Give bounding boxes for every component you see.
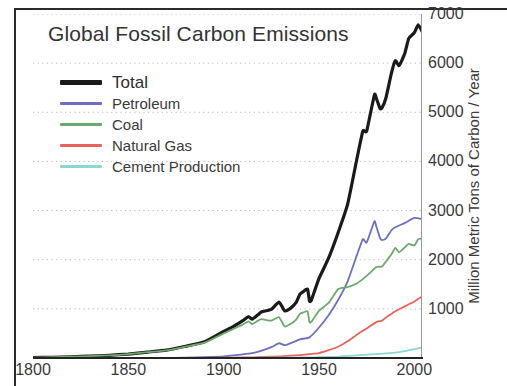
y-tick-label: 6000: [428, 54, 464, 72]
legend-label-total: Total: [112, 73, 148, 93]
legend-item-petroleum: Petroleum: [60, 93, 240, 114]
x-axis-line: [33, 357, 423, 359]
legend-swatch-total: [60, 80, 102, 85]
y-tick-label: 4000: [428, 152, 464, 170]
y-tick-label: 5000: [428, 103, 464, 121]
y-tick-label: 2000: [428, 251, 464, 269]
plot-wrapper: Global Fossil Carbon Emissions Total Pet…: [0, 0, 507, 386]
x-tick-label: 1950: [301, 361, 337, 379]
y-tick-label: 3000: [428, 202, 464, 220]
legend-swatch-petroleum: [60, 102, 102, 105]
plot-area: [33, 14, 422, 358]
series-line-coal: [33, 239, 422, 358]
chart-title: Global Fossil Carbon Emissions: [48, 22, 349, 46]
y-axis-title: Million Metric Tons of Carbon / Year: [465, 68, 482, 304]
legend-swatch-coal: [60, 123, 102, 126]
y-tick-label: 7000: [428, 5, 464, 23]
chart-legend: Total Petroleum Coal Natural Gas Cement …: [60, 72, 240, 177]
legend-label-cement-production: Cement Production: [112, 158, 240, 175]
y-axis-line: [421, 14, 422, 358]
legend-label-coal: Coal: [112, 116, 143, 133]
series-line-natural-gas: [33, 297, 422, 358]
x-tick-label: 1850: [111, 361, 147, 379]
legend-item-natural-gas: Natural Gas: [60, 135, 240, 156]
figure-root: Global Fossil Carbon Emissions Total Pet…: [0, 0, 507, 386]
legend-swatch-natural-gas: [60, 144, 102, 147]
legend-item-cement-production: Cement Production: [60, 156, 240, 177]
chart-canvas: [33, 14, 422, 358]
legend-item-total: Total: [60, 72, 240, 93]
x-tick-label: 1800: [15, 361, 51, 379]
legend-label-natural-gas: Natural Gas: [112, 137, 192, 154]
legend-item-coal: Coal: [60, 114, 240, 135]
legend-label-petroleum: Petroleum: [112, 95, 180, 112]
x-tick-label: 1900: [206, 361, 242, 379]
x-tick-label: 2000: [397, 361, 433, 379]
y-tick-label: 1000: [428, 300, 464, 318]
legend-swatch-cement-production: [60, 165, 102, 168]
series-line-petroleum: [33, 218, 422, 358]
